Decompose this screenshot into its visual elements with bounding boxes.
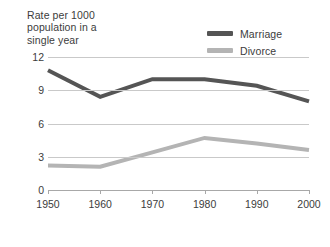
y-axis-tick-label: 9 xyxy=(4,84,44,96)
x-axis-tick-mark xyxy=(205,190,206,194)
legend-swatch-icon xyxy=(207,31,233,36)
x-axis-tick-label: 1970 xyxy=(141,198,164,210)
chart-legend: MarriageDivorce xyxy=(207,25,327,59)
x-axis-tick-label: 1950 xyxy=(36,198,59,210)
line-chart: Rate per 1000 population in a single yea… xyxy=(0,0,330,247)
y-axis-tick-label: 3 xyxy=(4,151,44,163)
series-line-divorce xyxy=(48,138,309,167)
x-axis-tick-label: 2000 xyxy=(297,198,320,210)
chart-axis-title: Rate per 1000 population in a single yea… xyxy=(27,9,157,46)
x-axis-line xyxy=(48,190,309,191)
plot-area xyxy=(48,57,309,190)
gridline xyxy=(48,90,309,91)
y-axis-tick-label: 6 xyxy=(4,118,44,130)
legend-swatch-icon xyxy=(207,48,233,53)
gridline xyxy=(48,57,309,58)
x-axis-tick-label: 1980 xyxy=(193,198,216,210)
x-axis-tick-mark xyxy=(100,190,101,194)
x-axis-tick-label: 1960 xyxy=(89,198,112,210)
legend-item-marriage[interactable]: Marriage xyxy=(207,25,327,42)
legend-label: Marriage xyxy=(240,28,282,40)
series-line-marriage xyxy=(48,70,309,101)
x-axis-tick-mark xyxy=(152,190,153,194)
y-axis-tick-label: 0 xyxy=(4,184,44,196)
y-axis-tick-label: 12 xyxy=(4,51,44,63)
x-axis-tick-label: 1990 xyxy=(245,198,268,210)
x-axis-tick-mark xyxy=(309,190,310,194)
x-axis-tick-mark xyxy=(48,190,49,194)
x-axis-tick-mark xyxy=(257,190,258,194)
gridline xyxy=(48,124,309,125)
gridline xyxy=(48,157,309,158)
legend-label: Divorce xyxy=(240,45,276,57)
